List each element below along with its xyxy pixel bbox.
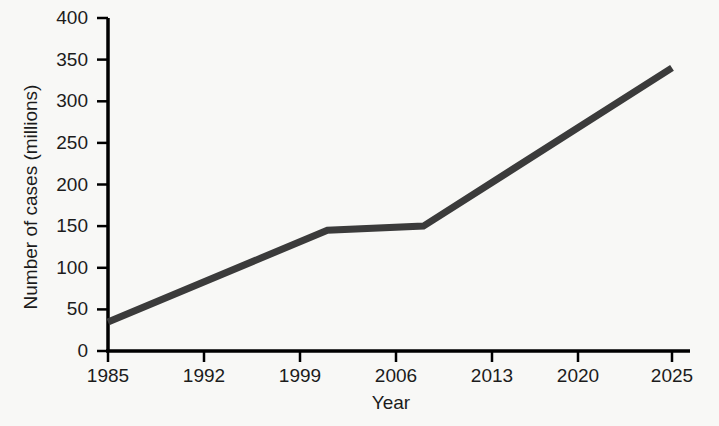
x-tick-label-1999: 1999	[279, 365, 321, 387]
chart-figure: 400 350 300 250 200 150 100 50 0 1985 19…	[0, 0, 719, 426]
line-chart-plot	[0, 0, 719, 426]
axes	[106, 18, 690, 351]
data-series-line	[108, 68, 672, 322]
x-tick-label-2020: 2020	[557, 365, 599, 387]
y-axis-title: Number of cases (millions)	[20, 47, 42, 347]
x-tick-label-2013: 2013	[471, 365, 513, 387]
x-tick-label-2025: 2025	[651, 365, 693, 387]
x-axis-title: Year	[108, 392, 674, 414]
x-tick-label-1985: 1985	[87, 365, 129, 387]
x-tick-label-1992: 1992	[183, 365, 225, 387]
x-tick-label-2006: 2006	[375, 365, 417, 387]
y-tick-label-400: 400	[10, 7, 88, 29]
